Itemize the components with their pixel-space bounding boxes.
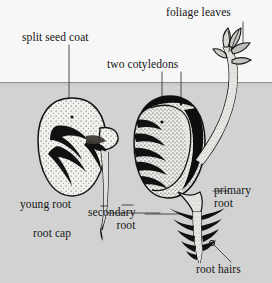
- label-primary-root-line1: primary: [214, 184, 251, 197]
- leader-dot-coat: [180, 103, 183, 106]
- label-primary-root: primary root: [214, 184, 251, 210]
- label-root-cap: root cap: [33, 227, 71, 240]
- leader-dot-cotyledon: [160, 120, 163, 123]
- label-primary-root-line2: root: [214, 197, 251, 210]
- label-root-hairs: root hairs: [196, 263, 241, 276]
- label-secondary-root-line2: root: [88, 219, 136, 232]
- label-secondary-root: secondary root: [88, 206, 136, 232]
- label-secondary-root-line1: secondary: [88, 206, 136, 219]
- label-young-root: young root: [20, 198, 71, 211]
- label-split-seed-coat: split seed coat: [22, 31, 89, 44]
- leader-dot-early: [71, 116, 74, 119]
- germination-diagram: split seed coat two cotyledons foliage l…: [0, 0, 272, 283]
- label-foliage-leaves: foliage leaves: [166, 6, 231, 19]
- label-two-cotyledons: two cotyledons: [107, 58, 178, 71]
